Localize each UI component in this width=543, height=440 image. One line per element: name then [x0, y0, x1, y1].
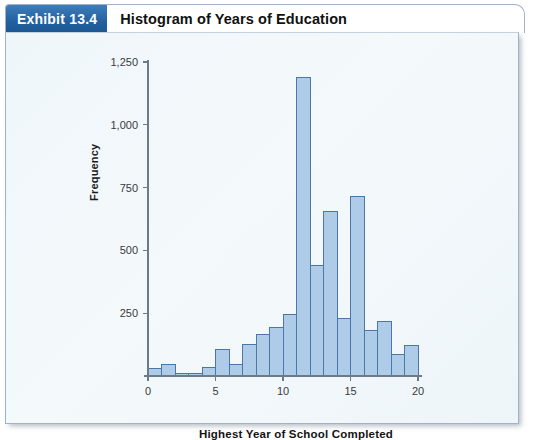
exhibit-number-badge: Exhibit 13.4	[6, 5, 107, 33]
histogram-bar	[364, 331, 378, 376]
histogram-bar	[148, 368, 162, 376]
histogram-bar	[405, 346, 419, 376]
x-axis-tick-label: 10	[277, 385, 289, 397]
histogram-chart: Frequency 2505007501,0001,25005101520 Hi…	[6, 33, 520, 425]
y-axis-tick-label: 1,250	[110, 56, 138, 68]
y-axis-tick-label: 750	[120, 182, 138, 194]
histogram-bar	[297, 77, 311, 376]
histogram-bar	[162, 365, 176, 376]
histogram-bar	[310, 265, 324, 376]
x-axis-title: Highest Year of School Completed	[146, 428, 446, 440]
histogram-bar	[337, 318, 351, 376]
histogram-bar	[391, 355, 405, 376]
histogram-bar	[283, 314, 297, 376]
histogram-bar	[229, 365, 243, 376]
y-axis-tick-label: 250	[120, 307, 138, 319]
exhibit-title: Histogram of Years of Education	[107, 5, 347, 33]
x-axis-tick-label: 5	[212, 385, 218, 397]
histogram-bar	[378, 322, 392, 376]
plot-canvas: 2505007501,0001,25005101520	[6, 33, 520, 425]
histogram-bar	[351, 196, 365, 376]
histogram-bar	[216, 350, 230, 376]
x-axis-tick-label: 0	[145, 385, 151, 397]
histogram-bar	[256, 335, 270, 376]
histogram-bar	[270, 327, 284, 376]
exhibit-body-panel: Frequency 2505007501,0001,25005101520 Hi…	[5, 32, 519, 424]
histogram-bar	[202, 367, 216, 376]
histogram-bar	[324, 211, 338, 376]
x-axis-tick-label: 20	[412, 385, 424, 397]
x-axis-tick-label: 15	[344, 385, 356, 397]
exhibit-figure: Exhibit 13.4 Histogram of Years of Educa…	[5, 4, 525, 428]
exhibit-header: Exhibit 13.4 Histogram of Years of Educa…	[5, 4, 525, 33]
y-axis-tick-label: 1,000	[110, 119, 138, 131]
histogram-bar	[243, 345, 257, 376]
y-axis-tick-label: 500	[120, 244, 138, 256]
